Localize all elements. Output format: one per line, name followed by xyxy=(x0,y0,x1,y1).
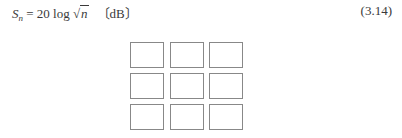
equation-number: (3.14) xyxy=(361,3,392,19)
square-root: √n xyxy=(73,6,89,22)
equation: Sn = 20 log √n〔dB〕 xyxy=(12,3,138,23)
grid-cell-1-1 xyxy=(130,42,164,68)
grid-cell-3-3 xyxy=(209,104,243,130)
grid-cell-3-2 xyxy=(170,104,204,130)
grid-cell-2-3 xyxy=(209,73,243,99)
grid-figure xyxy=(130,42,243,130)
grid-cell-1-3 xyxy=(209,42,243,68)
equals-sign: = xyxy=(23,6,37,21)
grid-cell-2-1 xyxy=(130,73,164,99)
log-function: log xyxy=(50,6,73,21)
grid-cell-1-2 xyxy=(170,42,204,68)
unit-label: 〔dB〕 xyxy=(97,6,138,21)
radicand: n xyxy=(80,5,89,21)
grid-cell-3-1 xyxy=(130,104,164,130)
coefficient: 20 xyxy=(37,6,50,21)
grid-cell-2-2 xyxy=(170,73,204,99)
